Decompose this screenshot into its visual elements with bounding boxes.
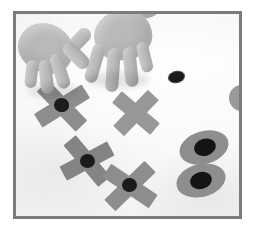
right-hand-finger-middle: [105, 48, 121, 93]
oval-2: [173, 158, 229, 202]
screenshot-root: [0, 0, 262, 239]
pinched-dot: [54, 98, 69, 112]
oval-2-center-dot: [188, 170, 213, 192]
right-hand-finger-little: [135, 41, 154, 74]
left-hand: [16, 14, 97, 112]
partial-circle-right-edge: [229, 85, 239, 111]
x-shape-3-center-dot: [80, 154, 95, 168]
left-hand-finger-ring: [24, 59, 39, 88]
oval-1-center-dot: [192, 136, 218, 158]
photograph: [16, 14, 239, 216]
x-shape-4-center-dot: [122, 178, 137, 192]
photo-frame: [13, 11, 242, 219]
